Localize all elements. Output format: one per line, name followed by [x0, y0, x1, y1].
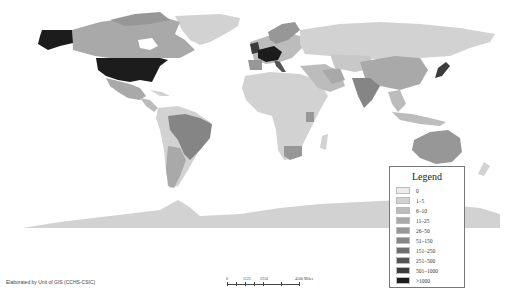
legend-item: 1–5	[396, 196, 458, 205]
scale-label: 2250	[260, 276, 268, 281]
scale-bar: 0 1125 2250 4500 Miles	[227, 276, 307, 290]
map-credit: Elaborated by Unit of GIS (CCHS-CSIC)	[6, 279, 95, 285]
legend-item: 501–1000	[396, 266, 458, 275]
region-indonesia	[392, 112, 446, 126]
region-japan	[435, 62, 450, 78]
legend-item: 11–25	[396, 216, 458, 225]
legend-swatch	[396, 197, 410, 204]
legend-swatch	[396, 247, 410, 254]
legend-item: 151–250	[396, 246, 458, 255]
legend-item: 26–50	[396, 226, 458, 235]
legend-item: 0	[396, 186, 458, 195]
map-legend: Legend 0 1–5 6–10 11–25 26–50 51–150 151…	[389, 166, 465, 288]
legend-item: 251–500	[396, 256, 458, 265]
region-madagascar	[320, 134, 328, 150]
legend-item: 51–150	[396, 236, 458, 245]
scale-tick	[254, 282, 255, 286]
region-australia	[412, 130, 462, 164]
scale-label: 0	[226, 276, 228, 281]
scale-tick	[245, 282, 246, 286]
region-iberia	[248, 60, 262, 70]
legend-title: Legend	[396, 171, 458, 182]
scale-tick	[227, 282, 228, 286]
legend-item: 6–10	[396, 206, 458, 215]
scale-label: 4500 Miles	[295, 276, 313, 281]
legend-swatch	[396, 207, 410, 214]
region-kenya	[306, 112, 314, 122]
scale-tick	[263, 282, 264, 286]
region-central-america	[140, 98, 158, 112]
legend-item: >1000	[396, 276, 458, 285]
region-new-zealand	[478, 162, 490, 176]
region-caribbean	[150, 90, 170, 96]
region-russia	[300, 22, 495, 60]
scale-tick	[299, 282, 300, 286]
region-alaska	[38, 30, 73, 50]
legend-swatch	[396, 267, 410, 274]
legend-swatch	[396, 277, 410, 284]
legend-swatch	[396, 257, 410, 264]
scale-tick	[281, 282, 282, 286]
legend-swatch	[396, 187, 410, 194]
legend-swatch	[396, 217, 410, 224]
legend-swatch	[396, 237, 410, 244]
scale-label: 1125	[243, 276, 251, 281]
legend-swatch	[396, 227, 410, 234]
scale-tick	[236, 282, 237, 286]
region-southeast-asia	[388, 90, 406, 112]
